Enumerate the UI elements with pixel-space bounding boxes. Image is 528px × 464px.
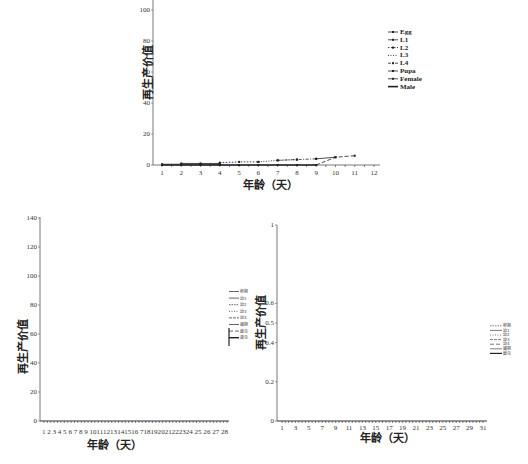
x-tick-label: 23 xyxy=(426,424,434,432)
y-tick-label: 0 xyxy=(147,161,151,169)
legend-item: 雄虫 xyxy=(240,334,248,340)
legend-item-male: Male xyxy=(400,83,415,91)
y-tick-label: 0 xyxy=(271,417,275,425)
top-chart: 100806040200 123456789101112 年龄（天） 再生产价值… xyxy=(140,0,422,192)
y-tick-label: 100 xyxy=(140,6,151,14)
legend-item: 雌虫 xyxy=(240,328,248,334)
legend-item: 幼1 xyxy=(240,295,247,301)
x-tick-label: 31 xyxy=(480,424,488,432)
y-tick-label: 0 xyxy=(34,417,38,425)
top-y-label: 再生产价值 xyxy=(141,45,155,100)
legend-item: 幼3 xyxy=(240,308,247,314)
bl-x-label: 年龄（天） xyxy=(87,438,142,452)
y-tick-label: 120 xyxy=(27,243,38,251)
x-tick-label: 25 xyxy=(439,424,447,432)
x-tick-label: 4 xyxy=(218,169,222,177)
x-tick-label: 27 xyxy=(453,424,461,432)
legend-item: 卵期 xyxy=(240,288,248,294)
series-line-pupa xyxy=(316,157,335,159)
y-tick-label: 20 xyxy=(30,388,38,396)
br-x-ticks: 135791113151719212325272931 xyxy=(280,421,487,432)
y-tick-label: 60 xyxy=(30,330,38,338)
x-tick-label: 2 xyxy=(180,169,184,177)
top-series-lines xyxy=(161,155,356,166)
legend-item: 蛹期 xyxy=(240,321,248,327)
bl-x-tick-labels: 1 2 3 4 5 6 7 8 9 10111213141516 7181920… xyxy=(42,428,228,436)
x-tick-label: 3 xyxy=(294,424,298,432)
x-tick-label: 7 xyxy=(276,169,280,177)
x-tick-label: 9 xyxy=(314,169,318,177)
x-tick-label: 1 xyxy=(280,424,284,432)
x-tick-label: 21 xyxy=(413,424,421,432)
x-tick-label: 10 xyxy=(332,169,340,177)
top-x-label: 年龄（天） xyxy=(243,178,298,192)
legend-item-l4: L4 xyxy=(400,59,409,67)
x-tick-label: 29 xyxy=(466,424,474,432)
legend-item: 幼4 xyxy=(240,314,247,320)
br-y-label: 再生产价值 xyxy=(254,295,268,350)
y-tick-label: 20 xyxy=(143,130,151,138)
x-tick-label: 13 xyxy=(359,424,367,432)
top-x-ticks: 123456789101112 xyxy=(160,165,378,177)
br-legend: 卵期幼1幼2幼3幼4蛹期雌虫 xyxy=(490,322,511,356)
bottom-left-chart: 140120100806040200 1 2 3 4 5 6 7 8 9 101… xyxy=(16,214,248,452)
x-tick-label: 12 xyxy=(371,169,379,177)
bl-legend: 卵期幼1幼2幼3幼4蛹期雌虫雄虫 xyxy=(229,288,248,346)
y-tick-label: 40 xyxy=(30,359,38,367)
x-tick-label: 6 xyxy=(257,169,261,177)
x-tick-label: 11 xyxy=(351,169,358,177)
y-tick-label: 1 xyxy=(271,221,275,229)
legend-item: 雌虫 xyxy=(503,350,511,356)
bl-y-label: 再生产价值 xyxy=(16,319,30,374)
x-tick-label: 8 xyxy=(295,169,299,177)
x-tick-label: 7 xyxy=(320,424,324,432)
x-tick-label: 17 xyxy=(386,424,394,432)
x-tick-label: 11 xyxy=(346,424,353,432)
legend-item-female: Female xyxy=(400,75,422,83)
x-tick-label: 15 xyxy=(372,424,380,432)
x-tick-label: 5 xyxy=(307,424,311,432)
x-tick-label: 19 xyxy=(399,424,407,432)
legend-item-l2: L2 xyxy=(400,44,409,52)
legend-item-l3: L3 xyxy=(400,51,409,59)
figure: 100806040200 123456789101112 年龄（天） 再生产价值… xyxy=(0,0,528,464)
x-tick-label: 5 xyxy=(237,169,241,177)
y-tick-label: 140 xyxy=(27,214,38,222)
br-x-label: 年龄（天） xyxy=(360,431,415,445)
x-tick-label: 1 xyxy=(160,169,164,177)
y-tick-label: 0.2 xyxy=(265,378,274,386)
x-tick-label: 9 xyxy=(334,424,338,432)
legend-item: 幼2 xyxy=(240,301,247,307)
top-legend: EggL1L2L3L4PupaFemaleMale xyxy=(388,28,422,91)
y-tick-label: 80 xyxy=(143,37,151,45)
x-tick-label: 3 xyxy=(199,169,203,177)
y-tick-label: 80 xyxy=(30,301,38,309)
bottom-right-chart: 10.60.50.40.20 1357911131517192123252729… xyxy=(254,221,511,445)
y-tick-label: 100 xyxy=(27,272,38,280)
legend-item-l1: L1 xyxy=(400,36,409,44)
legend-item-pupa: Pupa xyxy=(400,67,416,75)
legend-item-egg: Egg xyxy=(400,28,412,36)
